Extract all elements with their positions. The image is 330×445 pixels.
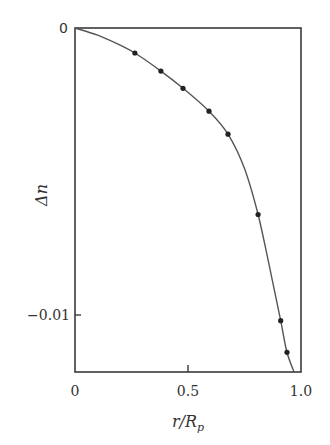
chart: 0 −0.01 0 0.5 1.0 r/Rp Δn: [0, 0, 330, 445]
data-point: [206, 109, 211, 114]
fit-curve: [75, 28, 294, 372]
data-point: [284, 350, 289, 355]
plot-frame: [75, 28, 301, 372]
x-tick-label-0: 0: [71, 383, 80, 399]
data-point: [256, 212, 261, 217]
x-axis-label: r/Rp: [172, 412, 204, 434]
y-tick-label-minus-0.01: −0.01: [27, 307, 70, 323]
y-axis-label: Δn: [32, 184, 51, 207]
data-point: [278, 318, 283, 323]
data-point: [158, 69, 163, 74]
x-tick-label-0.5: 0.5: [177, 383, 199, 399]
data-point: [180, 86, 185, 91]
data-markers: [132, 50, 289, 355]
x-tick-label-1.0: 1.0: [290, 383, 312, 399]
y-tick-label-0: 0: [59, 20, 68, 36]
data-point: [225, 132, 230, 137]
data-point: [132, 50, 137, 55]
